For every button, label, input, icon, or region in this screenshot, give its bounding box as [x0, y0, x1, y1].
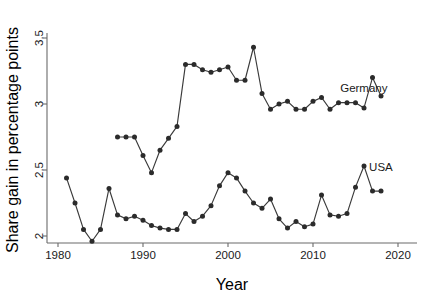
data-point-usa-2007	[285, 226, 290, 231]
data-point-germany-2006	[277, 102, 282, 107]
data-point-usa-1998	[209, 203, 214, 208]
data-point-usa-2009	[302, 224, 307, 229]
data-point-germany-1995	[183, 62, 188, 67]
data-point-usa-1986	[107, 186, 112, 191]
data-point-germany-1990	[141, 153, 146, 158]
data-point-germany-1989	[132, 135, 137, 140]
data-point-usa-2005	[268, 197, 273, 202]
data-point-usa-2011	[319, 193, 324, 198]
data-point-usa-2016	[362, 164, 367, 169]
data-point-germany-1988	[124, 135, 129, 140]
line-chart: 22.533.5 19801990200020102020 GermanyUSA…	[0, 0, 425, 299]
data-point-usa-1989	[132, 214, 137, 219]
data-point-germany-2003	[251, 45, 256, 50]
series-label-germany: Germany	[340, 82, 388, 94]
data-point-germany-1992	[158, 148, 163, 153]
data-point-usa-1987	[115, 212, 120, 217]
data-point-usa-1982	[73, 201, 78, 206]
x-tick-label-2010: 2010	[300, 249, 326, 261]
y-tick-label-3.5: 3.5	[33, 30, 45, 46]
series-labels: GermanyUSA	[340, 82, 393, 173]
data-point-usa-1997	[200, 214, 205, 219]
data-point-usa-1995	[183, 211, 188, 216]
data-point-germany-1991	[149, 170, 154, 175]
data-point-usa-1985	[98, 227, 103, 232]
data-point-usa-2006	[277, 216, 282, 221]
data-point-usa-2008	[294, 219, 299, 224]
data-point-usa-2015	[353, 185, 358, 190]
data-point-usa-2001	[234, 175, 239, 180]
data-point-usa-1988	[124, 216, 129, 221]
data-point-usa-1999	[217, 183, 222, 188]
data-point-usa-2003	[251, 201, 256, 206]
x-axis-title: Year	[216, 276, 249, 293]
chart-figure: 22.533.5 19801990200020102020 GermanyUSA…	[0, 0, 425, 299]
data-point-germany-1997	[200, 67, 205, 72]
data-point-usa-2014	[345, 211, 350, 216]
data-point-usa-1994	[175, 227, 180, 232]
data-point-germany-2007	[285, 99, 290, 104]
x-axis: 19801990200020102020	[45, 243, 417, 261]
x-tick-label-1980: 1980	[45, 249, 71, 261]
data-point-usa-1996	[192, 219, 197, 224]
y-axis-title: Share gain in percentage points	[4, 27, 21, 253]
data-point-usa-2012	[328, 212, 333, 217]
y-tick-label-3: 3	[33, 101, 45, 107]
series-layer	[64, 45, 384, 244]
data-point-germany-2001	[234, 78, 239, 83]
data-point-usa-2018	[379, 189, 384, 194]
data-point-usa-2010	[311, 222, 316, 227]
data-point-usa-2013	[336, 214, 341, 219]
data-point-germany-1993	[166, 136, 171, 141]
data-point-germany-2004	[260, 91, 265, 96]
data-point-germany-1994	[175, 124, 180, 129]
data-point-germany-2016	[362, 105, 367, 110]
data-point-germany-2012	[328, 107, 333, 112]
x-tick-label-2020: 2020	[385, 249, 411, 261]
data-point-usa-1993	[166, 227, 171, 232]
data-point-germany-2018	[379, 94, 384, 99]
data-point-germany-2009	[302, 107, 307, 112]
data-point-usa-1990	[141, 218, 146, 223]
data-point-usa-1992	[158, 226, 163, 231]
data-point-germany-2002	[243, 78, 248, 83]
x-tick-label-1990: 1990	[130, 249, 156, 261]
data-point-usa-1984	[90, 239, 95, 244]
data-point-germany-1996	[192, 62, 197, 67]
data-point-germany-1998	[209, 70, 214, 75]
data-point-usa-2002	[243, 189, 248, 194]
data-point-germany-2010	[311, 99, 316, 104]
data-point-usa-2004	[260, 206, 265, 211]
data-point-germany-2015	[353, 100, 358, 105]
x-tick-label-2000: 2000	[215, 249, 241, 261]
series-line-usa	[67, 166, 382, 241]
data-point-germany-2000	[226, 65, 231, 70]
data-point-usa-1981	[64, 175, 69, 180]
data-point-germany-2017	[370, 75, 375, 80]
series-label-usa: USA	[369, 161, 393, 173]
data-point-germany-1999	[217, 67, 222, 72]
data-point-usa-1991	[149, 223, 154, 228]
series-line-germany	[118, 47, 382, 172]
y-axis: 22.533.5	[33, 30, 47, 243]
data-point-germany-1987	[115, 135, 120, 140]
data-point-germany-2011	[319, 95, 324, 100]
y-tick-label-2.5: 2.5	[33, 162, 45, 178]
data-point-usa-2000	[226, 170, 231, 175]
data-point-germany-2008	[294, 107, 299, 112]
data-point-germany-2013	[336, 100, 341, 105]
data-point-usa-2017	[370, 189, 375, 194]
y-tick-label-2: 2	[33, 233, 45, 239]
data-point-usa-1983	[81, 227, 86, 232]
data-point-germany-2005	[268, 107, 273, 112]
data-point-germany-2014	[345, 100, 350, 105]
